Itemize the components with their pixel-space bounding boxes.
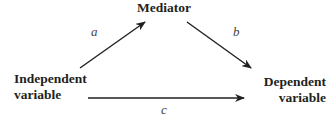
- arrow-b: [187, 22, 251, 68]
- arrow-a: [80, 22, 145, 68]
- arrows-layer: [0, 0, 330, 123]
